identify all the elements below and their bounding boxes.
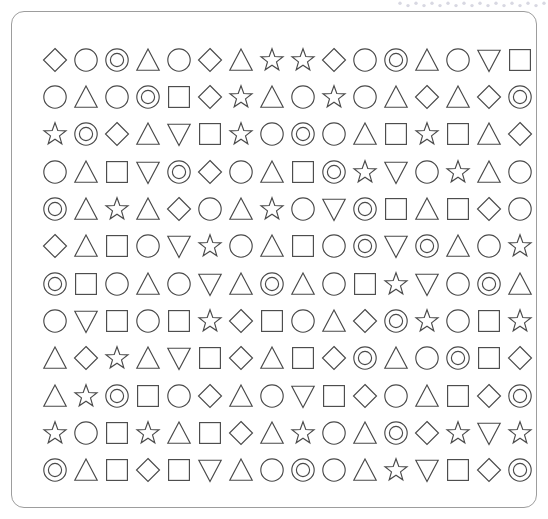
triangle-icon bbox=[287, 267, 318, 301]
down-triangle-icon bbox=[163, 117, 194, 151]
triangle-icon bbox=[163, 416, 194, 450]
circle-icon bbox=[411, 341, 442, 375]
diamond-icon bbox=[473, 192, 504, 226]
square-icon bbox=[163, 80, 194, 114]
circle-icon bbox=[256, 117, 287, 151]
triangle-icon bbox=[256, 80, 287, 114]
double-circle-icon bbox=[39, 453, 70, 487]
square-icon bbox=[349, 267, 380, 301]
square-icon bbox=[287, 229, 318, 263]
circle-icon bbox=[504, 192, 535, 226]
star-icon bbox=[504, 304, 535, 338]
square-icon bbox=[101, 453, 132, 487]
square-icon bbox=[287, 155, 318, 189]
circle-icon bbox=[318, 117, 349, 151]
circle-icon bbox=[39, 304, 70, 338]
square-icon bbox=[194, 117, 225, 151]
circle-icon bbox=[163, 43, 194, 77]
circle-icon bbox=[101, 267, 132, 301]
zigzag-dot bbox=[542, 2, 545, 5]
triangle-icon bbox=[225, 453, 256, 487]
circle-icon bbox=[442, 43, 473, 77]
down-triangle-icon bbox=[163, 229, 194, 263]
zigzag-dot bbox=[510, 2, 513, 5]
double-circle-icon bbox=[318, 155, 349, 189]
triangle-icon bbox=[473, 155, 504, 189]
down-triangle-icon bbox=[473, 416, 504, 450]
triangle-icon bbox=[380, 80, 411, 114]
circle-icon bbox=[225, 155, 256, 189]
star-icon bbox=[225, 117, 256, 151]
down-triangle-icon bbox=[411, 267, 442, 301]
triangle-icon bbox=[411, 192, 442, 226]
circle-icon bbox=[504, 155, 535, 189]
double-circle-icon bbox=[380, 416, 411, 450]
star-icon bbox=[380, 453, 411, 487]
star-icon bbox=[132, 416, 163, 450]
circle-icon bbox=[318, 267, 349, 301]
circle-icon bbox=[380, 379, 411, 413]
square-icon bbox=[256, 304, 287, 338]
star-icon bbox=[225, 80, 256, 114]
square-icon bbox=[473, 341, 504, 375]
square-icon bbox=[380, 192, 411, 226]
down-triangle-icon bbox=[194, 453, 225, 487]
circle-icon bbox=[473, 229, 504, 263]
triangle-icon bbox=[380, 341, 411, 375]
double-circle-icon bbox=[256, 267, 287, 301]
triangle-icon bbox=[504, 267, 535, 301]
diamond-icon bbox=[473, 379, 504, 413]
triangle-icon bbox=[225, 267, 256, 301]
circle-icon bbox=[349, 80, 380, 114]
circle-icon bbox=[101, 80, 132, 114]
double-circle-icon bbox=[380, 304, 411, 338]
zigzag-dot bbox=[430, 2, 433, 5]
dotted-zigzag-strip bbox=[396, 0, 548, 9]
diamond-icon bbox=[70, 341, 101, 375]
circle-icon bbox=[163, 379, 194, 413]
square-icon bbox=[442, 192, 473, 226]
diamond-icon bbox=[101, 117, 132, 151]
double-circle-icon bbox=[349, 229, 380, 263]
diamond-icon bbox=[318, 43, 349, 77]
circle-icon bbox=[163, 267, 194, 301]
triangle-icon bbox=[132, 117, 163, 151]
down-triangle-icon bbox=[318, 192, 349, 226]
triangle-icon bbox=[39, 379, 70, 413]
triangle-icon bbox=[70, 155, 101, 189]
zigzag-dot bbox=[534, 4, 537, 7]
zigzag-dot bbox=[438, 4, 441, 7]
double-circle-icon bbox=[132, 80, 163, 114]
double-circle-icon bbox=[70, 117, 101, 151]
diamond-icon bbox=[225, 304, 256, 338]
double-circle-icon bbox=[504, 379, 535, 413]
circle-icon bbox=[442, 267, 473, 301]
double-circle-icon bbox=[442, 341, 473, 375]
double-circle-icon bbox=[504, 80, 535, 114]
square-icon bbox=[101, 304, 132, 338]
double-circle-icon bbox=[287, 117, 318, 151]
zigzag-dot bbox=[422, 4, 425, 7]
diamond-icon bbox=[194, 80, 225, 114]
diamond-icon bbox=[411, 416, 442, 450]
down-triangle-icon bbox=[132, 155, 163, 189]
square-icon bbox=[442, 453, 473, 487]
triangle-icon bbox=[70, 192, 101, 226]
triangle-icon bbox=[411, 43, 442, 77]
zigzag-dot bbox=[518, 4, 521, 7]
star-icon bbox=[349, 155, 380, 189]
square-icon bbox=[287, 341, 318, 375]
triangle-icon bbox=[256, 341, 287, 375]
square-icon bbox=[101, 155, 132, 189]
triangle-icon bbox=[256, 155, 287, 189]
zigzag-dot bbox=[526, 2, 529, 5]
star-icon bbox=[256, 192, 287, 226]
double-circle-icon bbox=[349, 341, 380, 375]
star-icon bbox=[411, 117, 442, 151]
double-circle-icon bbox=[101, 43, 132, 77]
diamond-icon bbox=[39, 229, 70, 263]
triangle-icon bbox=[349, 117, 380, 151]
circle-icon bbox=[287, 192, 318, 226]
double-circle-icon bbox=[411, 229, 442, 263]
double-circle-icon bbox=[473, 267, 504, 301]
